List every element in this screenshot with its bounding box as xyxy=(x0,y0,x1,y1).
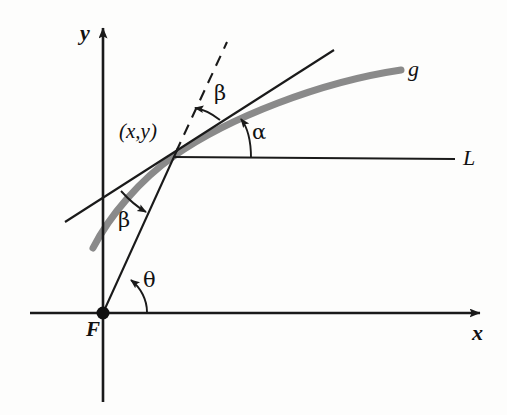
angle-alpha-arc xyxy=(241,119,251,158)
focus-label: F xyxy=(86,317,100,342)
diagram-canvas xyxy=(0,0,507,415)
angle-alpha-label: α xyxy=(252,120,266,144)
curve-g-label: g xyxy=(408,56,419,82)
y-axis-label: y xyxy=(80,20,90,46)
angle-beta-upper-label: β xyxy=(214,81,226,105)
point-coordinate-label: (x,y) xyxy=(119,119,157,144)
angle-beta-lower-label: β xyxy=(118,208,130,232)
angle-beta-upper-arc xyxy=(195,108,220,120)
angle-theta-label: θ xyxy=(143,268,156,292)
x-axis-label: x xyxy=(472,320,483,346)
tangent-line xyxy=(65,50,334,222)
ray-L-label: L xyxy=(463,145,475,171)
horizontal-ray-L xyxy=(174,157,455,159)
figure-container: y x F g L (x,y) β α β θ xyxy=(0,0,507,415)
